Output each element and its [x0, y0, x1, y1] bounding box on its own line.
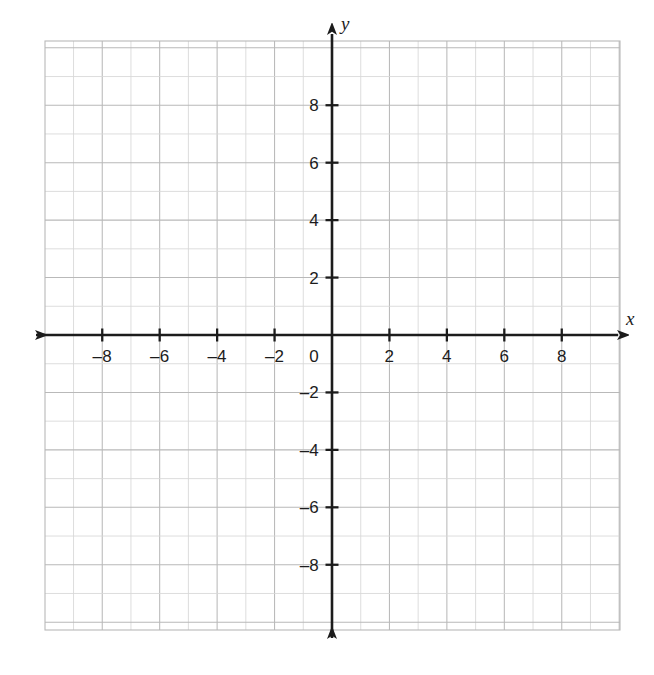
y-tick-label-6: 6 — [309, 155, 319, 172]
y-tick-label-8: 8 — [309, 97, 319, 114]
x-tick-label-2: 2 — [385, 348, 395, 365]
y-tick-label--6: –6 — [300, 499, 319, 516]
y-axis-label: y — [341, 14, 349, 33]
x-tick-label-4: 4 — [442, 348, 452, 365]
y-tick-label--4: –4 — [300, 442, 319, 459]
x-tick-label--4: –4 — [207, 348, 226, 365]
y-tick-label-2: 2 — [309, 270, 319, 287]
x-axis-label: x — [626, 309, 634, 328]
x-tick-label--8: –8 — [93, 348, 112, 365]
coordinate-plane-figure: –8–6–4–224688642–2–4–6–80 y x — [0, 0, 654, 675]
y-tick-label--2: –2 — [300, 384, 319, 401]
y-tick-label--8: –8 — [300, 557, 319, 574]
axis-lines — [36, 34, 618, 638]
x-tick-label-6: 6 — [499, 348, 509, 365]
y-tick-label-4: 4 — [309, 212, 319, 229]
coordinate-plane-canvas — [0, 0, 654, 675]
x-tick-label--6: –6 — [150, 348, 169, 365]
origin-label: 0 — [309, 348, 319, 365]
x-tick-label--2: –2 — [265, 348, 284, 365]
x-tick-label-8: 8 — [557, 348, 567, 365]
